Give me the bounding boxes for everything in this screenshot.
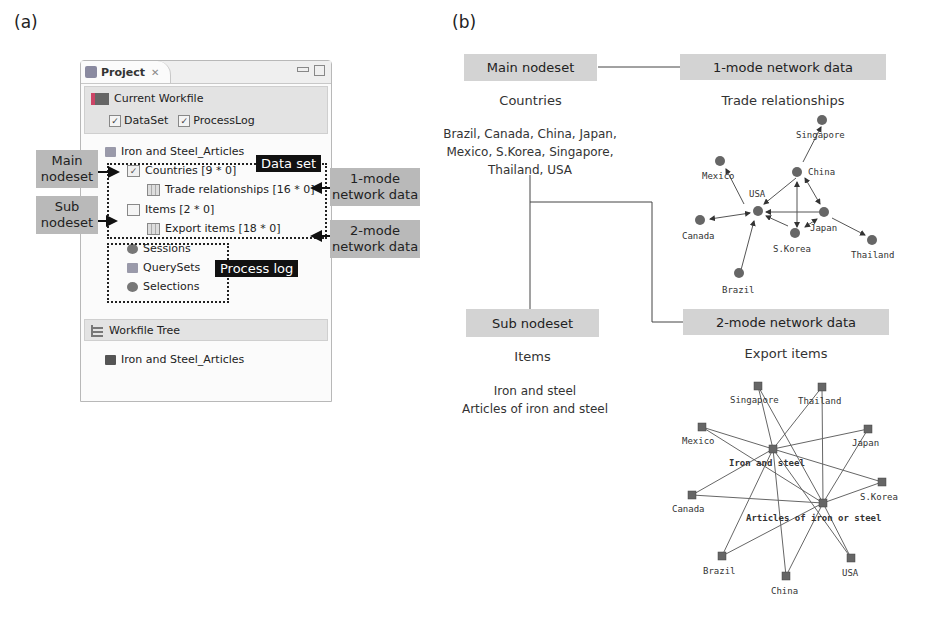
- svg-text:Thailand: Thailand: [851, 250, 894, 260]
- svg-text:Mexico: Mexico: [702, 171, 735, 181]
- callout-arrows: [0, 0, 440, 623]
- svg-text:Singapore: Singapore: [730, 395, 779, 405]
- svg-text:Articles of iron or steel: Articles of iron or steel: [746, 513, 881, 523]
- svg-text:China: China: [771, 586, 798, 596]
- countries-list-line: Mexico, S.Korea, Singapore,: [440, 143, 620, 161]
- countries-list-line: Brazil, Canada, China, Japan,: [440, 125, 620, 143]
- svg-text:Brazil: Brazil: [703, 566, 736, 576]
- items-list-line: Articles of iron and steel: [450, 400, 620, 418]
- node-label: Singapore: [796, 130, 845, 140]
- svg-text:Mexico: Mexico: [682, 436, 715, 446]
- svg-text:S.Korea: S.Korea: [773, 244, 811, 254]
- svg-text:Iron and steel: Iron and steel: [729, 458, 805, 468]
- countries-list: Brazil, Canada, China, Japan, Mexico, S.…: [440, 125, 620, 179]
- sub-nodeset-box: Sub nodeset: [466, 309, 599, 337]
- items-list-line: Iron and steel: [450, 382, 620, 400]
- two-mode-title: Export items: [683, 346, 889, 361]
- sub-nodeset-title: Items: [466, 349, 599, 364]
- svg-text:China: China: [808, 167, 835, 177]
- svg-text:S.Korea: S.Korea: [860, 492, 898, 502]
- svg-text:Brazil: Brazil: [722, 285, 755, 295]
- svg-text:Canada: Canada: [672, 504, 705, 514]
- items-list: Iron and steel Articles of iron and stee…: [450, 382, 620, 418]
- svg-text:Japan: Japan: [852, 438, 879, 448]
- two-mode-box: 2-mode network data: [683, 309, 889, 335]
- trade-network-graph: Singapore Mexico China USA Canada Japan …: [660, 100, 929, 310]
- export-network-graph: Singapore Thailand Mexico Japan Iron and…: [660, 380, 929, 620]
- svg-text:Thailand: Thailand: [798, 396, 841, 406]
- svg-text:Canada: Canada: [682, 231, 715, 241]
- main-nodeset-box: Main nodeset: [464, 54, 597, 81]
- countries-list-line: Thailand, USA: [440, 161, 620, 179]
- main-nodeset-title: Countries: [464, 93, 597, 108]
- svg-text:Japan: Japan: [810, 223, 837, 233]
- svg-text:USA: USA: [749, 189, 766, 199]
- svg-text:USA: USA: [842, 568, 859, 578]
- one-mode-box: 1-mode network data: [680, 54, 886, 80]
